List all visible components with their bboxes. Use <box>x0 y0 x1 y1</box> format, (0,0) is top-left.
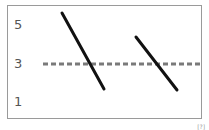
plot-area <box>0 0 209 130</box>
line-segment-1 <box>62 13 104 89</box>
caption-text: [?] <box>197 124 205 130</box>
